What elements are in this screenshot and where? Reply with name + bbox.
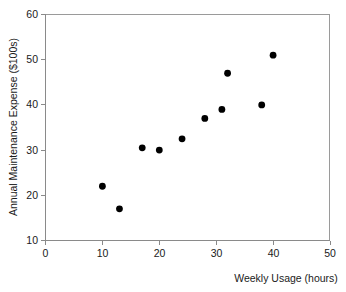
x-tick-label: 40 — [268, 247, 280, 259]
x-tick-label: 10 — [97, 247, 109, 259]
x-tick-label: 30 — [211, 247, 223, 259]
data-point — [116, 205, 123, 212]
y-tick-label: 60 — [26, 8, 38, 20]
x-tick-label: 20 — [154, 247, 166, 259]
y-tick-label: 50 — [26, 53, 38, 65]
data-point — [179, 135, 186, 142]
y-tick-label: 20 — [26, 189, 38, 201]
data-point — [218, 106, 225, 113]
data-points-layer — [99, 52, 277, 212]
x-tick-label: 50 — [324, 247, 336, 259]
data-point — [139, 144, 146, 151]
data-point — [156, 147, 163, 154]
y-tick-label: 30 — [26, 144, 38, 156]
data-point — [201, 115, 208, 122]
data-point — [99, 183, 106, 190]
y-axis-ticks — [41, 15, 45, 241]
chart-canvas: 60 50 40 30 20 10 0 10 20 30 40 50 Annua… — [0, 0, 346, 292]
x-tick-label: 0 — [43, 247, 49, 259]
data-point — [270, 52, 277, 59]
scatter-chart: 60 50 40 30 20 10 0 10 20 30 40 50 Annua… — [0, 0, 346, 292]
x-tick-labels: 0 10 20 30 40 50 — [43, 247, 336, 259]
plot-frame — [45, 14, 330, 240]
data-point — [258, 102, 265, 109]
x-axis-ticks — [46, 241, 331, 245]
y-tick-labels: 60 50 40 30 20 10 — [26, 8, 38, 246]
y-tick-label: 40 — [26, 98, 38, 110]
y-tick-label: 10 — [26, 234, 38, 246]
y-axis-title: Annual Maintenance Expense ($100s) — [7, 38, 19, 216]
x-axis-title: Weekly Usage (hours) — [234, 272, 338, 284]
data-point — [224, 70, 231, 77]
